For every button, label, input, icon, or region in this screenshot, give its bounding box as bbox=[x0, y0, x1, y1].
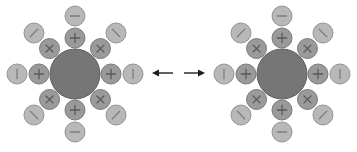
inner-node-cross-bottom-right[interactable] bbox=[297, 89, 317, 109]
structure-left[interactable] bbox=[7, 6, 143, 142]
outer-node-bar-right[interactable] bbox=[123, 64, 143, 84]
outer-node-bar-left[interactable] bbox=[7, 64, 27, 84]
central-sphere[interactable] bbox=[257, 49, 307, 99]
resonance-diagram bbox=[0, 0, 357, 152]
outer-node-minus-top[interactable] bbox=[272, 6, 292, 26]
structures-layer bbox=[7, 6, 350, 142]
inner-node-plus-right[interactable] bbox=[308, 64, 328, 84]
structure-right[interactable] bbox=[214, 6, 350, 142]
inner-node-cross-bottom-left[interactable] bbox=[247, 89, 267, 109]
inner-node-cross-bottom-left[interactable] bbox=[40, 89, 60, 109]
outer-node-minus-bottom[interactable] bbox=[272, 122, 292, 142]
inner-node-plus-bottom[interactable] bbox=[65, 100, 85, 120]
outer-node-slash-top-left[interactable] bbox=[24, 23, 44, 43]
resonance-arrow[interactable] bbox=[152, 70, 205, 77]
arrow-head-right-icon bbox=[198, 70, 205, 77]
outer-node-slash-top-left[interactable] bbox=[231, 23, 251, 43]
outer-node-backslash-bottom-left[interactable] bbox=[24, 105, 44, 125]
inner-node-cross-top-right[interactable] bbox=[297, 39, 317, 59]
inner-node-plus-top[interactable] bbox=[65, 28, 85, 48]
outer-node-bar-right[interactable] bbox=[330, 64, 350, 84]
inner-node-cross-bottom-right[interactable] bbox=[90, 89, 110, 109]
inner-node-cross-top-left[interactable] bbox=[40, 39, 60, 59]
outer-node-minus-bottom[interactable] bbox=[65, 122, 85, 142]
inner-node-cross-top-right[interactable] bbox=[90, 39, 110, 59]
diagram-canvas bbox=[0, 0, 357, 152]
inner-node-plus-right[interactable] bbox=[101, 64, 121, 84]
inner-node-cross-top-left[interactable] bbox=[247, 39, 267, 59]
outer-node-minus-top[interactable] bbox=[65, 6, 85, 26]
outer-node-backslash-top-right[interactable] bbox=[313, 23, 333, 43]
arrow-head-left-icon bbox=[152, 70, 159, 77]
inner-node-plus-bottom[interactable] bbox=[272, 100, 292, 120]
outer-node-backslash-top-right[interactable] bbox=[106, 23, 126, 43]
outer-node-backslash-bottom-left[interactable] bbox=[231, 105, 251, 125]
inner-node-plus-left[interactable] bbox=[29, 64, 49, 84]
connector-layer bbox=[152, 70, 205, 77]
outer-node-slash-bottom-right[interactable] bbox=[106, 105, 126, 125]
central-sphere[interactable] bbox=[50, 49, 100, 99]
outer-node-slash-bottom-right[interactable] bbox=[313, 105, 333, 125]
inner-node-plus-top[interactable] bbox=[272, 28, 292, 48]
inner-node-plus-left[interactable] bbox=[236, 64, 256, 84]
outer-node-bar-left[interactable] bbox=[214, 64, 234, 84]
